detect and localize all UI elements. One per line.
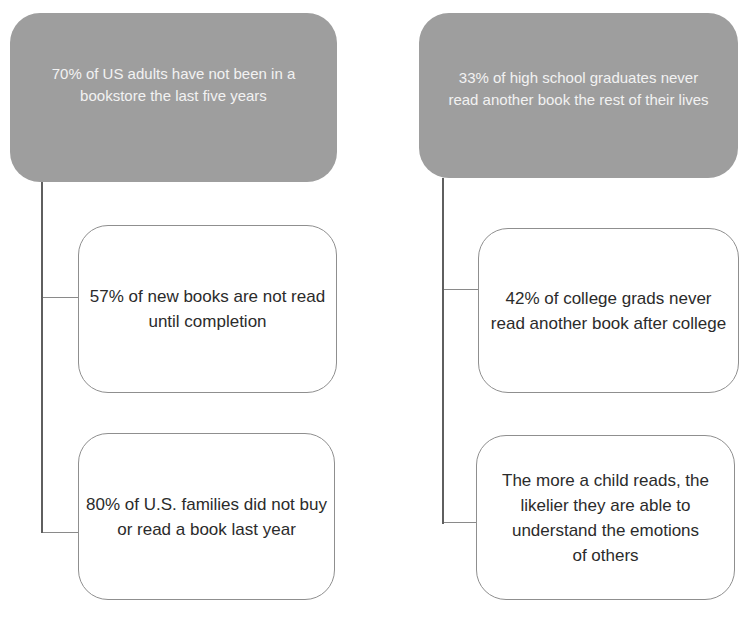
- node-text-line: or read a book last year: [117, 517, 296, 542]
- node-child-reading-empathy: The more a child reads, the likelier the…: [476, 435, 735, 600]
- node-text-line: The more a child reads, the: [502, 468, 709, 493]
- connector-right-vertical: [442, 178, 444, 524]
- node-families-book-purchase: 80% of U.S. families did not buy or read…: [78, 433, 335, 600]
- connector-left-vertical: [41, 182, 43, 533]
- reading-stats-diagram: 70% of US adults have not been in a book…: [0, 0, 752, 618]
- node-text-line: read another book after college: [491, 311, 726, 336]
- node-text-line: bookstore the last five years: [80, 85, 267, 107]
- node-text-line: 33% of high school graduates never: [459, 67, 698, 89]
- connector-left-to-child2: [43, 532, 78, 533]
- connector-right-to-child1: [444, 289, 478, 290]
- connector-left-to-child1: [43, 297, 78, 298]
- node-new-books-completion: 57% of new books are not read until comp…: [78, 225, 337, 393]
- node-text-line: read another book the rest of their live…: [448, 89, 708, 111]
- node-text-line: of others: [572, 543, 638, 568]
- node-text-line: 42% of college grads never: [505, 286, 711, 311]
- node-text-line: understand the emotions: [512, 518, 699, 543]
- connector-right-to-child2: [444, 522, 476, 523]
- node-us-adults-bookstore: 70% of US adults have not been in a book…: [10, 13, 337, 182]
- node-text-line: until completion: [148, 309, 266, 334]
- node-college-grads-never-read: 42% of college grads never read another …: [478, 228, 739, 393]
- node-text-line: likelier they are able to: [520, 493, 690, 518]
- node-text-line: 70% of US adults have not been in a: [52, 63, 296, 85]
- node-text-line: 57% of new books are not read: [90, 284, 325, 309]
- node-hs-grads-never-read: 33% of high school graduates never read …: [419, 13, 738, 178]
- node-text-line: 80% of U.S. families did not buy: [86, 492, 327, 517]
